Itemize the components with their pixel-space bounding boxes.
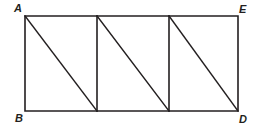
rectangle-outline bbox=[25, 16, 238, 111]
vertex-label-b: B bbox=[15, 113, 23, 124]
geometry-figure: A E B D bbox=[0, 0, 257, 133]
vertex-label-a: A bbox=[14, 3, 22, 14]
vertex-label-d: D bbox=[239, 114, 247, 125]
diagonal-square-1 bbox=[25, 16, 97, 111]
diagonal-square-3 bbox=[169, 16, 238, 111]
vertex-label-e: E bbox=[239, 4, 246, 15]
figure-canvas bbox=[0, 0, 257, 133]
diagonal-square-2 bbox=[97, 16, 169, 111]
